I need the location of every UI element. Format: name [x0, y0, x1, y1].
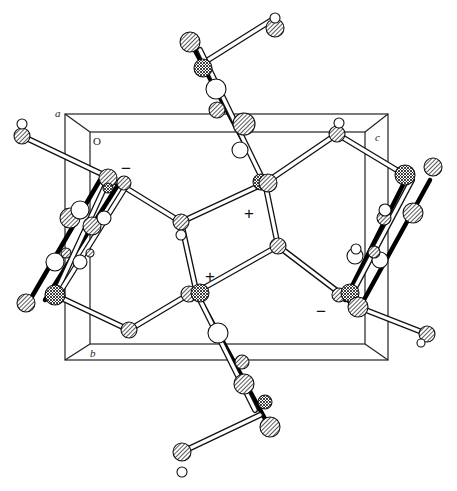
top-ring-stack — [180, 13, 284, 192]
charge-minus-right: − — [316, 302, 326, 321]
charge-minus-left: − — [121, 159, 131, 178]
axis-label-b: b — [90, 347, 96, 359]
charge-plus-upper: + — [244, 204, 254, 223]
origin-label: O — [93, 135, 101, 147]
axis-label-c: c — [375, 131, 380, 143]
right-ring-stack — [332, 158, 442, 317]
bottom-ring-stack — [173, 284, 280, 477]
charge-plus-lower: + — [205, 267, 215, 286]
axis-label-a: a — [55, 107, 61, 119]
left-ring-stack — [17, 169, 131, 312]
crystal-packing-diagram: a O c b — [0, 0, 457, 491]
